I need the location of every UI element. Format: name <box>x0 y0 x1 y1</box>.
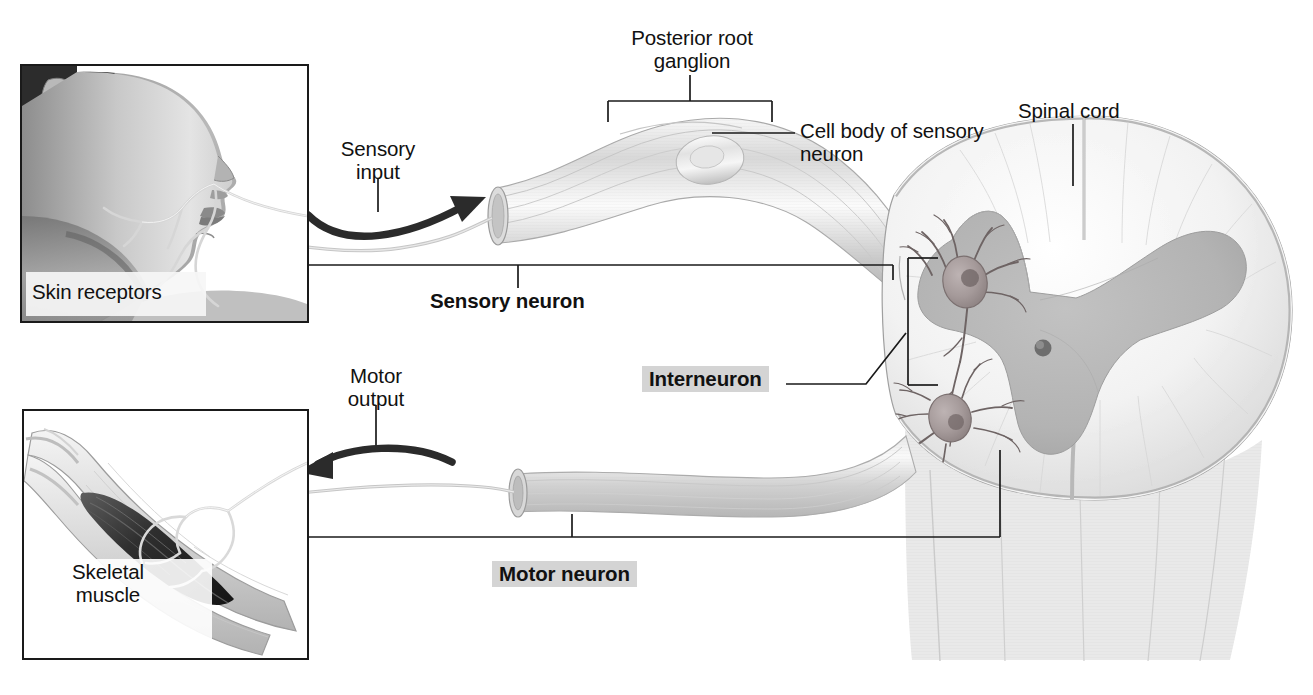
label-sensory-input: Sensory input <box>312 138 444 184</box>
label-interneuron: Interneuron <box>642 368 769 391</box>
anterior-root-nerve <box>509 436 916 517</box>
skeletal-muscle-illustration <box>24 411 307 658</box>
label-skin-receptors: Skin receptors <box>32 281 162 304</box>
label-spinal-cord: Spinal cord <box>1018 100 1119 123</box>
label-interneuron-text: Interneuron <box>642 366 769 392</box>
motor-output-arrow <box>318 448 452 464</box>
central-canal <box>1035 340 1052 357</box>
label-skeletal-muscle: Skeletal muscle <box>42 561 174 607</box>
label-posterior-root-ganglion: Posterior root ganglion <box>602 27 782 73</box>
sensory-input-arrow <box>308 207 462 236</box>
label-motor-output: Motor output <box>310 365 442 411</box>
skeletal-muscle-inset <box>22 409 309 660</box>
arrows-layer <box>297 196 486 479</box>
label-cell-body-sensory-neuron: Cell body of sensory neuron <box>800 120 1010 166</box>
label-motor-neuron: Motor neuron <box>492 563 637 586</box>
label-motor-neuron-text: Motor neuron <box>492 561 637 587</box>
figure-canvas: Posterior root ganglion Cell body of sen… <box>0 0 1313 695</box>
label-sensory-neuron: Sensory neuron <box>430 290 585 313</box>
spinal-cord-cross-section <box>800 116 1292 500</box>
